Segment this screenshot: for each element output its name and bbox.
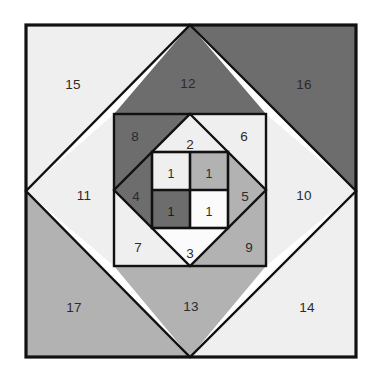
- region-label-12: 12: [180, 76, 195, 91]
- region-label-1-bottomright: 1: [206, 205, 213, 219]
- region-label-4: 4: [132, 189, 140, 204]
- region-label-11: 11: [77, 188, 91, 203]
- region-label-14: 14: [299, 300, 315, 315]
- region-label-13: 13: [183, 299, 198, 314]
- region-label-9: 9: [245, 240, 253, 255]
- region-label-3: 3: [186, 246, 194, 261]
- region-label-1-topleft: 1: [168, 167, 175, 181]
- region-label-6: 6: [240, 129, 248, 144]
- region-label-2: 2: [186, 137, 194, 152]
- region-label-15: 15: [65, 77, 80, 92]
- region-label-17: 17: [66, 300, 81, 315]
- region-label-1-topright: 1: [206, 167, 213, 181]
- region-label-7: 7: [134, 240, 142, 255]
- region-label-5: 5: [241, 189, 249, 204]
- nested-squares-figure: 1 1 1 1 2 3 4 5 6 7 8 9 10 11 12 13 14 1…: [0, 0, 377, 387]
- region-label-10: 10: [296, 188, 311, 203]
- region-label-8: 8: [131, 129, 139, 144]
- region-label-1-bottomleft: 1: [168, 205, 175, 219]
- diagram-canvas: 1 1 1 1 2 3 4 5 6 7 8 9 10 11 12 13 14 1…: [0, 0, 377, 387]
- region-label-16: 16: [296, 77, 311, 92]
